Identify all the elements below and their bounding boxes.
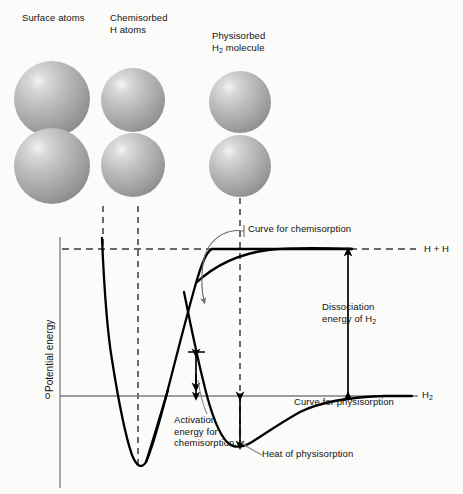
sphere-group bbox=[14, 61, 271, 204]
surface-atom-top-left bbox=[14, 61, 90, 137]
h2-axis-label-sub: 2 bbox=[429, 394, 433, 401]
dissociation-energy-label: Dissociationenergy of H2 bbox=[322, 301, 376, 327]
h2-axis-label: H2 bbox=[422, 389, 433, 404]
figure-root: Surface atoms Chemisorbed H atoms Physis… bbox=[0, 0, 463, 494]
physisorbed-h2-molecule-label: PhysisorbedH2 molecule bbox=[212, 30, 265, 56]
heat-of-physisorption-label-leader bbox=[241, 442, 262, 455]
chemisorption-label-leader bbox=[202, 231, 244, 301]
surface-atoms-label: Surface atoms bbox=[22, 12, 85, 24]
chemisorption-curve-upper-arc bbox=[196, 248, 352, 283]
activation-energy-label: Activation energy for chemisorption bbox=[174, 414, 234, 449]
physisorbed-h2-post: molecule bbox=[223, 42, 265, 53]
y-axis-label: Potential energy bbox=[44, 320, 55, 392]
dissociation-energy-line2-pre: energy of H bbox=[322, 313, 372, 324]
dissociation-energy-line2-sub: 2 bbox=[372, 318, 376, 325]
curve-for-physisorption-label: Curve for physisorption bbox=[294, 396, 394, 408]
physisorbed-h2-pre: H bbox=[212, 42, 219, 53]
h-plus-h-label: H + H bbox=[424, 243, 449, 255]
activation-energy-label-leader bbox=[198, 380, 207, 414]
h2-axis-label-pre: H bbox=[422, 389, 429, 400]
chemisorbed-h-atoms-label: Chemisorbed H atoms bbox=[110, 12, 168, 35]
zero-tick-label: 0 bbox=[45, 390, 50, 402]
chemisorption-curve-repulsive-branch bbox=[146, 390, 168, 462]
physisorbed-line1: Physisorbed bbox=[212, 30, 265, 41]
physisorbed-h2-atom-top bbox=[209, 71, 271, 133]
surface-atom-bottom-left bbox=[14, 128, 90, 204]
curve-for-chemisorption-label: Curve for chemisorption bbox=[248, 223, 351, 235]
heat-of-physisorption-label: Heat of physisorption bbox=[262, 448, 353, 460]
chemisorbed-h-atom-bottom bbox=[101, 133, 165, 197]
physisorbed-h2-atom-bottom bbox=[209, 135, 271, 197]
dissociation-energy-line1: Dissociation bbox=[322, 301, 374, 312]
chemisorbed-h-atom-top bbox=[101, 68, 165, 132]
